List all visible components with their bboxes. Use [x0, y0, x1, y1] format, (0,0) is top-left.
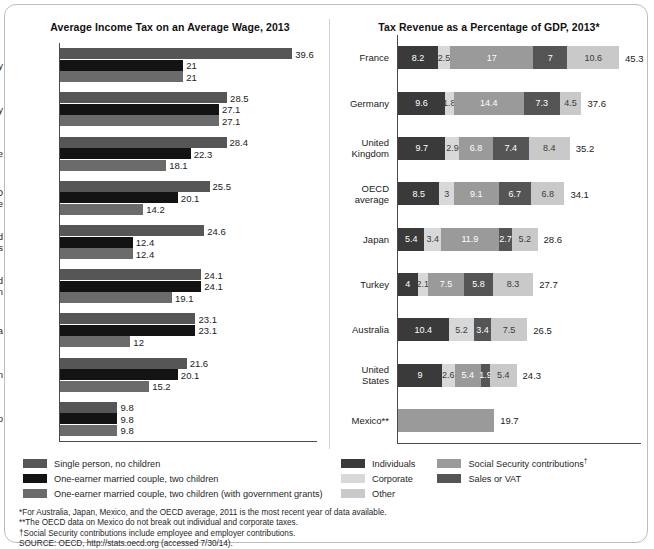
- stack-segment: 9.7: [398, 137, 445, 160]
- bar: 25.5: [60, 181, 210, 192]
- stack-segment: 9.6: [398, 92, 445, 115]
- bar: 20.1: [60, 192, 178, 203]
- bar-group: 24.612.412.4: [60, 225, 318, 259]
- stack-segment: 10.6: [567, 46, 619, 69]
- stack-segment: 2.5: [438, 46, 450, 69]
- stack-segment: 3: [439, 182, 454, 205]
- legend-right-column-1: IndividualsCorporateOther: [341, 457, 415, 502]
- footnote: SOURCE: OECD, http://stats.oecd.org (acc…: [19, 539, 639, 549]
- legend-label: Social Security contributions†: [468, 457, 587, 469]
- footnote: **The OECD data on Mexico do not break o…: [19, 518, 639, 528]
- stack-segment: 14.4: [454, 92, 524, 115]
- bar-value-label: 18.1: [169, 160, 188, 171]
- stacked-bar: 19.7: [398, 409, 494, 432]
- bar-value-label: 9.8: [120, 425, 133, 436]
- legend-label: Corporate: [372, 474, 413, 484]
- stacked-bar: 8.22.517710.645.3: [398, 46, 619, 69]
- bar-group: 28.527.127.1: [60, 92, 318, 126]
- bar-value-label: 15.2: [152, 381, 171, 392]
- bar-value-label: 9.8: [120, 413, 133, 424]
- stack-segment: 5.2: [512, 228, 537, 251]
- stack-total-label: 26.5: [533, 324, 552, 335]
- legend-swatch: [23, 474, 47, 483]
- category-label: Australia: [0, 325, 3, 336]
- legend-swatch: [341, 459, 365, 468]
- stack-total-label: 24.3: [523, 370, 542, 381]
- bar-group: 21.620.115.2: [60, 358, 318, 392]
- category-label: Mexico: [0, 413, 3, 424]
- bar: 12: [60, 336, 130, 347]
- legend-item: Corporate: [341, 472, 415, 485]
- stack-segment: 6.7: [499, 182, 532, 205]
- bar-value-label: 23.1: [198, 313, 217, 324]
- stack-segment: 2.7: [499, 228, 512, 251]
- category-label: Turkey: [0, 104, 3, 115]
- stack-segment: 8.3: [493, 273, 534, 296]
- stack-segment: 3.4: [474, 318, 491, 341]
- legend-label: Individuals: [372, 459, 415, 469]
- legend-swatch: [23, 489, 47, 498]
- footnotes: *For Australia, Japan, Mexico, and the O…: [19, 508, 639, 549]
- category-label: Japan: [363, 234, 389, 245]
- legend-item: One-earner married couple, two children: [23, 472, 323, 485]
- stack-segment: 5.2: [449, 318, 474, 341]
- bar-value-label: 12.4: [136, 237, 155, 248]
- category-label: Australia: [352, 324, 389, 335]
- stack-segment: 11.9: [441, 228, 499, 251]
- legend-swatch: [23, 459, 47, 468]
- bar-group: 39.62121: [60, 48, 318, 82]
- stack-segment: 8.5: [398, 182, 439, 205]
- bar-value-label: 21.6: [190, 358, 209, 369]
- legend-label: One-earner married couple, two children …: [54, 489, 323, 499]
- chart-title-right: Tax Revenue as a Percentage of GDP, 2013…: [331, 21, 647, 33]
- bar-group: 25.520.114.2: [60, 181, 318, 215]
- bar: 24.1: [60, 269, 201, 280]
- legend-label: Other: [372, 489, 395, 499]
- category-label: Germany: [0, 60, 3, 71]
- bar-value-label: 39.6: [295, 48, 314, 59]
- stack-segment: 2.9: [445, 137, 459, 160]
- x-axis-right: [397, 443, 641, 444]
- stack-segment: 7.4: [493, 137, 529, 160]
- legend-item: Individuals: [341, 457, 415, 470]
- stack-segment: 3.4: [424, 228, 441, 251]
- stack-segment: 1.9: [481, 364, 490, 387]
- stack-total-label: 19.7: [500, 415, 519, 426]
- stack-segment: 6.8: [459, 137, 492, 160]
- legend-swatch: [341, 489, 365, 498]
- bar-group: 9.89.89.8: [60, 402, 318, 436]
- stack-segment: 4: [398, 273, 418, 296]
- bar-value-label: 19.1: [175, 292, 194, 303]
- bar: 20.1: [60, 369, 178, 380]
- legend-item: Sales or VAT: [437, 472, 587, 485]
- stack-total-label: 28.6: [544, 234, 563, 245]
- stack-segment: 7.5: [428, 273, 465, 296]
- bar-value-label: 24.1: [204, 269, 223, 280]
- plot-area-right: 8.22.517710.645.3France9.61.814.47.34.53…: [397, 35, 641, 443]
- stack-segment: 2.6: [442, 364, 455, 387]
- category-label: OECD average: [355, 183, 389, 205]
- stack-segment: 10.4: [398, 318, 449, 341]
- category-label: United States: [0, 231, 3, 253]
- category-label: Germany: [350, 98, 389, 109]
- stack-segment: 1.8: [445, 92, 454, 115]
- footnote: *For Australia, Japan, Mexico, and the O…: [19, 508, 639, 518]
- stack-segment: 9: [398, 364, 442, 387]
- category-label: Mexico**: [352, 415, 390, 426]
- bar-value-label: 21: [186, 71, 197, 82]
- stack-segment: 4.5: [560, 92, 582, 115]
- bar-group: 24.124.119.1: [60, 269, 318, 303]
- stacked-bar: 5.43.411.92.75.228.6: [398, 228, 538, 251]
- category-label: United States: [362, 364, 389, 386]
- legend-swatch: [437, 474, 461, 483]
- bar-value-label: 20.1: [181, 192, 200, 203]
- stacked-bar: 92.65.41.95.424.3: [398, 364, 517, 387]
- bar-value-label: 23.1: [198, 325, 217, 336]
- stack-segment: 7.5: [491, 318, 528, 341]
- stack-segment: 17: [450, 46, 533, 69]
- figure-frame: Average Income Tax on an Average Wage, 2…: [4, 4, 648, 543]
- legend-label: Single person, no children: [54, 459, 160, 469]
- bar-group: 23.123.112: [60, 313, 318, 347]
- bar: 28.4: [60, 137, 227, 148]
- bar: 9.8: [60, 425, 117, 436]
